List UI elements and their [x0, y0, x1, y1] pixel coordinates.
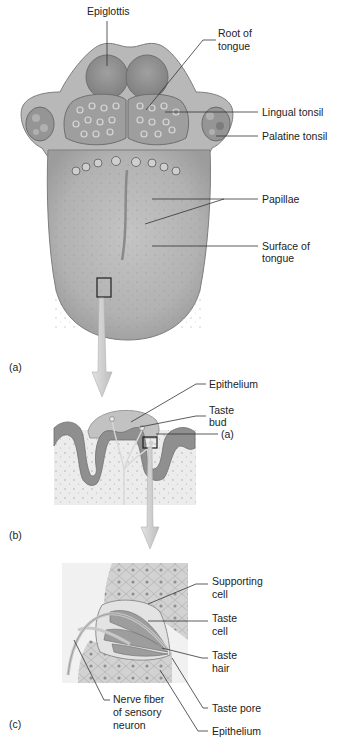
panel-marker-a: (a): [9, 361, 22, 373]
label-nerve-fiber-line3: neuron: [113, 719, 146, 732]
tongue-figure: [21, 43, 233, 340]
label-papilla: (a): [221, 428, 234, 441]
tongue-root-outline: [21, 43, 233, 160]
label-taste-hair-line2: hair: [212, 662, 230, 675]
label-palatine-tonsil: Palatine tonsil: [262, 130, 327, 143]
label-root-of-tongue-line1: Root of: [218, 27, 252, 40]
label-surface-of-tongue-line2: tongue: [262, 252, 294, 265]
label-taste-hair-line1: Taste: [212, 649, 237, 662]
leader-lines-b: [131, 384, 218, 434]
epiglottis-right-lobe: [126, 55, 168, 99]
label-epithelium-b: Epithelium: [209, 378, 258, 391]
panel-marker-b: (b): [9, 529, 22, 541]
label-supporting-cell-line1: Supporting: [212, 575, 263, 588]
label-papillae: Papillae: [262, 193, 299, 206]
label-taste-bud-line1: Taste: [209, 404, 234, 417]
label-taste-bud-line2: bud: [209, 416, 227, 429]
palatine-tonsil-left: [26, 107, 54, 141]
label-taste-pore: Taste pore: [212, 702, 261, 715]
label-epiglottis: Epiglottis: [87, 5, 130, 18]
label-epithelium-c: Epithelium: [212, 725, 261, 738]
label-supporting-cell-line2: cell: [212, 588, 228, 601]
label-taste-cell-line1: Taste: [212, 612, 237, 625]
label-surface-of-tongue-line1: Surface of: [262, 240, 310, 253]
label-taste-cell-line2: cell: [212, 625, 228, 638]
label-lingual-tonsil: Lingual tonsil: [262, 106, 323, 119]
papilla-section-figure: [54, 410, 196, 505]
taste-bud-figure: [62, 563, 188, 683]
panel-marker-c: (c): [9, 718, 21, 730]
label-root-of-tongue-line2: tongue: [218, 40, 250, 53]
label-nerve-fiber-line2: of sensory: [113, 706, 161, 719]
label-nerve-fiber-line1: Nerve fiber: [113, 693, 164, 706]
